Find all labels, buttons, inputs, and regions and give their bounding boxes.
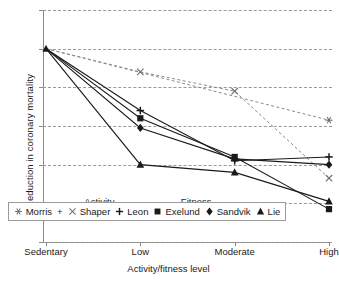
legend-label: Leon bbox=[127, 206, 148, 217]
legend-label: Exelund bbox=[165, 206, 199, 217]
series-line bbox=[46, 49, 329, 202]
legend-label: Shaper bbox=[80, 206, 111, 217]
legend-marker-x-icon bbox=[68, 207, 77, 216]
legend-marker-triangle-icon bbox=[256, 207, 265, 216]
marker-square bbox=[326, 206, 332, 212]
series-lie bbox=[46, 49, 333, 205]
series-leon bbox=[46, 49, 333, 165]
series-line bbox=[46, 49, 329, 165]
legend-item-morris: Morris bbox=[14, 206, 52, 217]
marker-plus bbox=[116, 208, 123, 215]
legend-item-sandvik: Sandvik bbox=[205, 206, 251, 217]
marker-square bbox=[155, 209, 161, 215]
marker-triangle bbox=[256, 208, 263, 215]
marker-plus bbox=[325, 153, 333, 161]
legend-item-leon: Leon bbox=[115, 206, 148, 217]
series-morris bbox=[46, 49, 333, 124]
series-line bbox=[46, 49, 329, 209]
series-sandvik bbox=[46, 49, 332, 169]
gridline bbox=[43, 242, 332, 243]
marker-diamond bbox=[137, 124, 144, 132]
x-tick-mark bbox=[235, 242, 236, 246]
x-tick-mark bbox=[140, 242, 141, 246]
x-tick-mark bbox=[329, 242, 330, 246]
marker-square bbox=[137, 115, 143, 121]
legend-marker-diamond-icon bbox=[205, 207, 214, 216]
x-tick-label-low: Low bbox=[132, 246, 149, 257]
legend-item-shaper: Shaper bbox=[68, 206, 111, 217]
x-axis-title: Activity/fitness level bbox=[0, 263, 337, 274]
x-tick-label-sedentary: Sedentary bbox=[24, 246, 67, 257]
legend-label: Sandvik bbox=[217, 206, 251, 217]
y-tick-mark bbox=[39, 242, 43, 243]
marker-asterisk bbox=[15, 209, 22, 215]
marker-x bbox=[326, 175, 332, 181]
y-axis-title: Reduction in coronary mortality bbox=[24, 56, 35, 226]
legend-item-exelund: Exelund bbox=[153, 206, 199, 217]
x-tick-label-moderate: Moderate bbox=[215, 246, 255, 257]
marker-x bbox=[69, 208, 75, 214]
legend-marker-asterisk-icon bbox=[14, 207, 23, 216]
marker-diamond bbox=[326, 161, 333, 169]
series-line bbox=[46, 49, 329, 161]
legend-marker-square-icon bbox=[153, 207, 162, 216]
marker-plus bbox=[137, 107, 145, 115]
series-shaper bbox=[46, 49, 332, 182]
marker-diamond bbox=[206, 208, 212, 216]
x-tick-mark bbox=[46, 242, 47, 246]
legend-marker-plus-icon bbox=[115, 207, 124, 216]
marker-triangle bbox=[42, 45, 49, 52]
chart-legend: Morris+ShaperLeonExelundSandvikLie bbox=[8, 202, 286, 221]
legend-label: Morris bbox=[26, 206, 52, 217]
legend-label: Lie bbox=[268, 206, 281, 217]
series-exelund bbox=[46, 49, 332, 213]
legend-item-lie: Lie bbox=[256, 206, 281, 217]
legend-joiner: + bbox=[57, 206, 63, 217]
marker-asterisk bbox=[325, 117, 332, 123]
x-tick-label-high: High bbox=[319, 246, 339, 257]
